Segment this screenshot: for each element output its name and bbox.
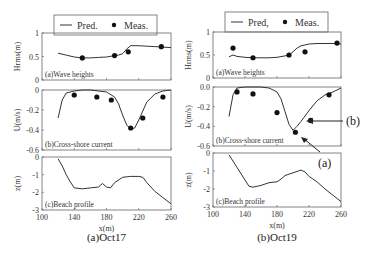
panel-left: Pred.Meas.10.50Hrms(m)(a)Wave heights0-0… — [13, 15, 177, 244]
y-axis-label: Hrms(m) — [13, 42, 22, 72]
y-tick-label: 0 — [206, 74, 210, 83]
legend-pred-label: Pred, — [248, 17, 269, 28]
predicted-line — [229, 87, 341, 130]
measured-point — [230, 46, 235, 51]
y-tick-label: -0.2 — [197, 103, 210, 112]
measured-point — [112, 53, 117, 58]
beach-profile-line — [58, 159, 171, 204]
x-tick-label: 140 — [239, 210, 251, 219]
measured-point — [159, 44, 164, 49]
measured-point — [160, 94, 165, 99]
measured-point — [326, 92, 331, 97]
y-tick-label: -0.4 — [197, 122, 210, 131]
legend: Pred,Meas. — [225, 12, 328, 32]
x-tick-label: 180 — [271, 210, 283, 219]
subplot-title: (c)Beach profile — [45, 200, 95, 209]
legend-meas-label: Meas. — [295, 17, 319, 28]
measured-point — [274, 110, 279, 115]
predicted-line — [229, 44, 341, 58]
annotation-a: (a) — [318, 156, 331, 170]
subplot-title: (a)Wave heights — [45, 70, 94, 79]
y-axis-label: U(m/s) — [184, 105, 193, 128]
measured-point — [80, 55, 85, 60]
measured-point — [250, 55, 255, 60]
y-axis-label: Hrms(m) — [184, 40, 193, 70]
y-tick-label: -1 — [203, 167, 210, 176]
subplot-a: 10.50Hrms(m)(a)Wave heights — [184, 28, 341, 83]
y-tick-label: 1 — [35, 29, 39, 38]
subplot-title: (a)Wave heights — [216, 68, 265, 77]
annotations: (b)(a) — [301, 114, 360, 170]
figure: Pred.Meas.10.50Hrms(m)(a)Wave heights0-0… — [0, 0, 370, 263]
annotation-b: (b) — [346, 114, 360, 128]
y-tick-label: 0 — [206, 149, 210, 158]
measured-point — [234, 89, 239, 94]
y-tick-label: 1 — [206, 28, 210, 37]
panel-caption: (b)Oct19 — [257, 231, 297, 244]
x-tick-label: 260 — [165, 213, 177, 222]
y-tick-label: 0 — [35, 76, 39, 85]
y-axis-label: U(m/s) — [13, 108, 22, 131]
meas-dot-icon — [283, 20, 287, 24]
y-axis-label: z(m) — [184, 172, 193, 187]
x-axis-label: x(m) — [269, 221, 285, 230]
subplot-c: 0-1-2-3z(m)(c)Beach profile1001401802202… — [13, 153, 177, 233]
y-tick-label: 0 — [35, 153, 39, 162]
measured-point — [94, 94, 99, 99]
y-tick-label: -2 — [32, 188, 39, 197]
y-tick-label: 0.0 — [200, 83, 210, 92]
measured-point — [334, 40, 339, 45]
measured-point — [293, 130, 298, 135]
x-tick-label: 140 — [68, 213, 80, 222]
legend-pred-label: Pred. — [77, 20, 98, 31]
panel-caption: (a)Oct17 — [87, 231, 127, 244]
measured-point — [250, 91, 255, 96]
subplot-b: 0-0.2-0.4-0.6U(m/s)(b)Cross-shore curren… — [13, 86, 171, 155]
y-tick-label: 0 — [35, 86, 39, 95]
measured-point — [302, 49, 307, 54]
x-tick-label: 180 — [101, 213, 113, 222]
measured-point — [128, 125, 133, 130]
subplot-title: (b)Cross-shore current — [216, 136, 285, 145]
x-tick-label: 100 — [207, 210, 219, 219]
y-tick-label: -1 — [32, 171, 39, 180]
meas-dot-icon — [112, 23, 116, 27]
arrow-head-icon — [301, 137, 308, 143]
y-tick-label: -0.2 — [26, 106, 39, 115]
measured-point — [109, 97, 114, 102]
legend-meas-label: Meas. — [124, 20, 148, 31]
subplot-title: (c)Beach profile — [216, 197, 266, 206]
measured-point — [126, 49, 131, 54]
legend: Pred.Meas. — [54, 15, 157, 35]
subplot-a: 10.50Hrms(m)(a)Wave heights — [13, 29, 171, 85]
x-tick-label: 260 — [335, 210, 347, 219]
y-tick-label: 0.5 — [29, 53, 39, 62]
measured-point — [286, 52, 291, 57]
x-tick-label: 220 — [303, 210, 315, 219]
subplot-title: (b)Cross-shore current — [45, 140, 114, 149]
measured-point — [72, 92, 77, 97]
y-tick-label: -0.4 — [26, 126, 39, 135]
panel-right: Pred,Meas.10.50Hrms(m)(a)Wave heights0.0… — [184, 12, 347, 244]
y-tick-label: -2 — [203, 185, 210, 194]
subplot-b: 0.0-0.2-0.4-0.6U(m/s)(b)Cross-shore curr… — [184, 83, 341, 151]
measured-point — [140, 115, 145, 120]
y-axis-label: z(m) — [13, 176, 22, 191]
x-tick-label: 220 — [133, 213, 145, 222]
x-tick-label: 100 — [36, 213, 48, 222]
y-tick-label: 0.5 — [200, 51, 210, 60]
